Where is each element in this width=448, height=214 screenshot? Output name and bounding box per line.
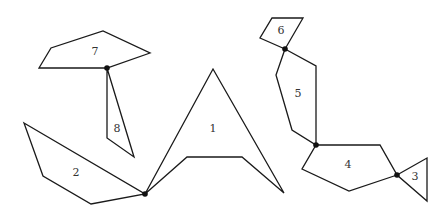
joint-4-5-dot-icon — [313, 142, 319, 148]
polygons-group — [24, 18, 427, 204]
polygon-label-6: 6 — [278, 24, 285, 37]
polygon-label-5: 5 — [295, 87, 302, 100]
polygon-label-7: 7 — [92, 45, 99, 58]
polygon-label-2: 2 — [73, 166, 80, 179]
joint-3-4-dot-icon — [394, 172, 400, 178]
polygon-linkage-diagram: 12345678 — [0, 0, 448, 214]
joint-5-6-dot-icon — [282, 46, 288, 52]
polygon-label-1: 1 — [210, 122, 217, 135]
polygon-label-8: 8 — [114, 122, 121, 135]
polygon-label-3: 3 — [412, 170, 419, 183]
joint-7-8-dot-icon — [104, 65, 110, 71]
joints-group — [104, 46, 400, 197]
polygon-label-4: 4 — [345, 158, 352, 171]
diagram-canvas: 12345678 — [0, 0, 448, 214]
joint-1-2-dot-icon — [142, 191, 148, 197]
polygon-8 — [107, 68, 134, 157]
